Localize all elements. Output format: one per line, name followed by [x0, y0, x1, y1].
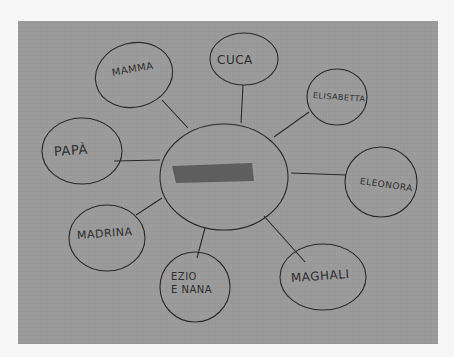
connector-cuca	[241, 85, 243, 123]
node-label-ezio-nana: EZIO E NANA	[171, 270, 212, 296]
connector-maghali	[264, 216, 305, 262]
node-label-cuca: CUCA	[217, 53, 253, 67]
connector-eleonora	[291, 173, 346, 175]
redaction-bar	[172, 163, 254, 183]
connector-madrina	[136, 198, 162, 215]
node-label-papa: PAPÀ	[53, 142, 88, 159]
connector-mamma	[162, 100, 188, 128]
bottom-border	[18, 344, 438, 357]
connector-elisabetta	[274, 112, 309, 137]
